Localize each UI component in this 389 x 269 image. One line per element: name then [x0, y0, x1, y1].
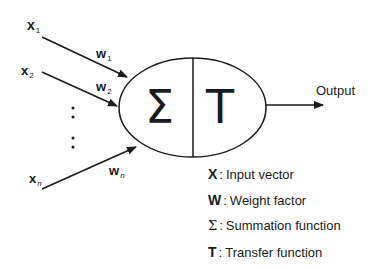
weight-var: w — [109, 163, 119, 178]
input-var: x — [27, 17, 35, 33]
legend-symbol: T — [208, 244, 217, 260]
input-subscript: 2 — [29, 71, 33, 80]
legend-item-input: X:Input vector — [208, 166, 341, 192]
ellipsis-dots — [72, 107, 75, 149]
legend-text: Input vector — [226, 167, 294, 182]
weight-label-wn: wn — [109, 163, 125, 180]
weight-subscript: 2 — [107, 87, 111, 96]
legend-symbol: W — [208, 192, 221, 208]
input-label-x1: x1 — [27, 17, 40, 35]
legend-text: Transfer function — [225, 245, 322, 260]
legend-symbol: X — [208, 166, 217, 182]
legend-item-weight: W:Weight factor — [208, 192, 341, 218]
input-var: x — [29, 171, 36, 186]
input-subscript: n — [37, 179, 41, 188]
legend-separator: : — [219, 245, 223, 260]
legend-item-transfer: T:Transfer function — [208, 244, 341, 269]
transfer-symbol: T — [206, 84, 234, 130]
legend-symbol: Σ — [208, 218, 217, 233]
legend-text: Summation function — [226, 218, 341, 233]
weight-var: w — [96, 79, 106, 94]
weight-label-w1: w1 — [96, 46, 112, 63]
legend-separator: : — [223, 193, 227, 208]
legend: X:Input vector W:Weight factor Σ:Summati… — [208, 166, 341, 269]
legend-item-summation: Σ:Summation function — [208, 218, 341, 244]
weight-subscript: n — [120, 171, 124, 180]
input-label-x2: x2 — [21, 63, 34, 80]
legend-separator: : — [219, 167, 223, 182]
weight-var: w — [96, 46, 106, 61]
input-var: x — [21, 63, 28, 78]
output-label: Output — [316, 83, 355, 98]
input-label-xn: xn — [29, 171, 42, 188]
legend-separator: : — [219, 218, 223, 233]
summation-symbol: Σ — [145, 84, 174, 130]
legend-text: Weight factor — [230, 193, 306, 208]
weight-subscript: 1 — [107, 54, 111, 63]
input-arrow-1 — [42, 37, 127, 77]
weight-label-w2: w2 — [96, 79, 112, 96]
input-subscript: 1 — [36, 26, 40, 35]
